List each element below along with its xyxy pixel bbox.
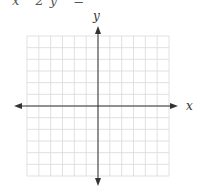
x-axis-left-arrow-icon <box>14 103 22 109</box>
coordinate-grid: x y <box>0 0 201 194</box>
x-axis-label: x <box>186 99 193 113</box>
y-axis-down-arrow-icon <box>95 178 101 186</box>
y-axis-label: y <box>92 9 100 23</box>
x-axis-right-arrow-icon <box>170 103 178 109</box>
y-axis-up-arrow-icon <box>95 26 101 34</box>
